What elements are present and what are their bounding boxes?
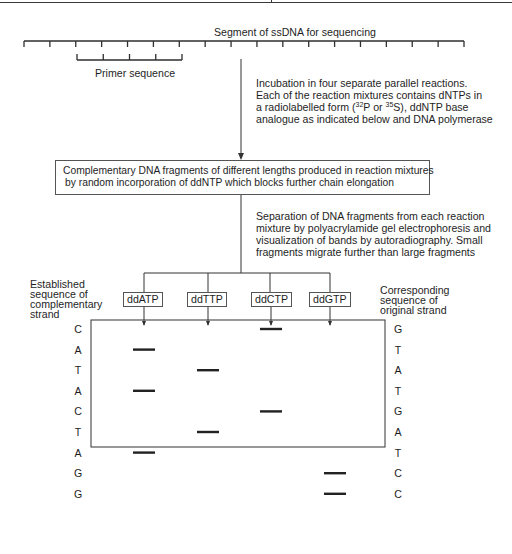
ssdna-segment — [24, 41, 464, 47]
lane-label-ddgtp: ddGTP — [309, 292, 351, 307]
step2-line: mixture by polyacrylamide gel electropho… — [256, 222, 491, 234]
lane-label-ddttp: ddTTP — [187, 292, 227, 307]
primer-bracket — [77, 54, 182, 60]
step1-text: S), ddNTP base — [393, 101, 468, 113]
complementary-base: C — [72, 323, 84, 335]
header-line: strand — [30, 309, 59, 319]
complementary-base: G — [72, 488, 84, 500]
complementary-base: G — [72, 467, 84, 479]
complementary-base: C — [72, 405, 84, 417]
original-base: A — [392, 426, 404, 438]
header-line: original strand — [380, 305, 447, 315]
step1-text: P or — [363, 101, 385, 113]
step1-line: analogue as indicated below and DNA poly… — [256, 113, 493, 125]
original-base: T — [392, 385, 404, 397]
gel-box — [91, 320, 385, 447]
step2-line: Separation of DNA fragments from each re… — [256, 210, 484, 222]
step2-line: visualization of bands by autoradiograph… — [256, 234, 483, 246]
original-base: T — [392, 447, 404, 459]
original-base: C — [392, 467, 404, 479]
complementary-base: A — [72, 447, 84, 459]
step1-text: a radiolabelled form ( — [256, 101, 356, 113]
lane-label-ddatp: ddATP — [123, 292, 163, 307]
original-base: G — [392, 323, 404, 335]
step1-line: Incubation in four separate parallel rea… — [256, 77, 467, 89]
gel-bands — [133, 329, 346, 494]
step1-line: Each of the reaction mixtures contains d… — [256, 89, 482, 101]
lane-label-ddctp: ddCTP — [251, 292, 292, 307]
arrow-step1 — [238, 59, 244, 160]
fragments-line: by random incorporation of ddNTP which b… — [65, 177, 394, 189]
primer-label: Primer sequence — [95, 67, 175, 79]
fragments-box: Complementary DNA fragments of different… — [55, 160, 430, 195]
original-base: C — [392, 488, 404, 500]
ssdna-title: Segment of ssDNA for sequencing — [214, 26, 376, 38]
complementary-base: A — [72, 344, 84, 356]
lane-arrows — [142, 306, 332, 326]
step1-line: a radiolabelled form (32P or 35S), ddNTP… — [256, 101, 468, 113]
complementary-base: T — [72, 364, 84, 376]
original-base: A — [392, 364, 404, 376]
complementary-base: T — [72, 426, 84, 438]
original-base: T — [392, 344, 404, 356]
step2-line: fragments migrate further than large fra… — [256, 246, 475, 258]
original-base: G — [392, 405, 404, 417]
complementary-base: A — [72, 385, 84, 397]
fragments-line: Complementary DNA fragments of different… — [63, 165, 434, 177]
